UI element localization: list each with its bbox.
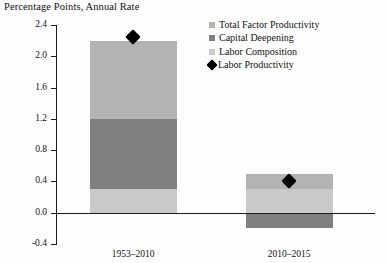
legend-item: Labor Composition xyxy=(209,45,319,59)
y-axis-tick-label: 2.4 xyxy=(5,20,47,29)
bar-segment xyxy=(246,189,333,212)
y-axis-tick-label: 2.0 xyxy=(5,51,47,60)
legend-swatch-icon xyxy=(209,49,215,55)
y-axis-tick-label: 1.6 xyxy=(5,83,47,92)
y-axis-line xyxy=(56,25,57,244)
legend-item: Labor Productivity xyxy=(209,59,319,73)
legend-item-label: Capital Deepening xyxy=(219,33,294,43)
bar-segment xyxy=(246,213,333,229)
y-axis-tick xyxy=(51,88,57,89)
bar-segment xyxy=(90,41,177,119)
legend-item-label: Total Factor Productivity xyxy=(219,20,319,30)
legend-swatch-icon xyxy=(209,22,215,28)
bar-segment xyxy=(90,189,177,212)
y-axis-tick-label: 0.4 xyxy=(5,176,47,185)
legend-item-label: Labor Productivity xyxy=(218,60,294,70)
x-axis-category-label: 2010–2015 xyxy=(229,249,349,259)
x-axis-category-label: 1953–2010 xyxy=(73,249,193,259)
y-axis-tick xyxy=(51,56,57,57)
y-axis-tick xyxy=(51,150,57,151)
chart-title: Percentage Points, Annual Rate xyxy=(4,1,139,12)
legend-item-label: Labor Composition xyxy=(219,47,297,57)
y-axis-tick-label: 0.0 xyxy=(5,208,47,217)
y-axis-tick-label: -0.4 xyxy=(5,239,47,248)
y-axis-tick xyxy=(51,25,57,26)
chart-legend: Total Factor ProductivityCapital Deepeni… xyxy=(209,18,319,72)
legend-item: Capital Deepening xyxy=(209,32,319,46)
productivity-decomposition-chart: Percentage Points, Annual Rate 2.42.01.6… xyxy=(0,0,387,263)
legend-swatch-icon xyxy=(209,35,215,41)
y-axis-tick-label: 1.2 xyxy=(5,114,47,123)
y-axis-tick xyxy=(51,181,57,182)
stacked-bar xyxy=(90,25,177,244)
bar-segment xyxy=(90,119,177,189)
legend-item: Total Factor Productivity xyxy=(209,18,319,32)
diamond-marker-icon xyxy=(206,60,217,71)
y-axis-tick xyxy=(51,244,57,245)
zero-baseline xyxy=(57,213,375,215)
y-axis-tick-label: 0.8 xyxy=(5,145,47,154)
y-axis-tick xyxy=(51,119,57,120)
